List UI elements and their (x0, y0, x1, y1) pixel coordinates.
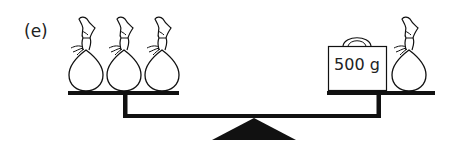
right-post (377, 93, 382, 118)
weight-label: 500 g (328, 55, 386, 74)
bag-icon (392, 17, 426, 91)
left-pan-items (69, 17, 179, 91)
right-pan (327, 91, 435, 95)
bag-icon (107, 17, 141, 91)
bag-icon (69, 17, 103, 91)
bag-icon (145, 17, 179, 91)
balance-scale-diagram (0, 0, 456, 152)
beam (123, 114, 381, 118)
fulcrum-triangle (212, 118, 296, 140)
